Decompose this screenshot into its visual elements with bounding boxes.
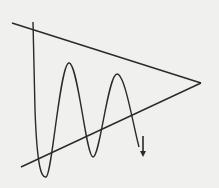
down-arrow-icon [140, 136, 146, 157]
diagram-svg [0, 0, 219, 188]
upper-trendline [12, 23, 201, 83]
triangle-pattern-diagram [0, 0, 219, 188]
lower-trendline [21, 83, 201, 167]
